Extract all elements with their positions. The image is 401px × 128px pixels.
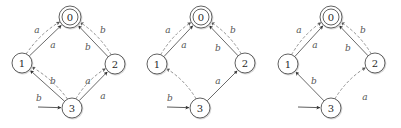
state-label: 1: [154, 59, 160, 70]
automaton-3-edges: [291, 22, 371, 107]
edge-label: a: [34, 25, 39, 35]
automaton-2-labels: aabbba: [165, 25, 236, 103]
edge-label: a: [296, 25, 301, 35]
edge-label: b: [85, 42, 91, 52]
edge-label: b: [50, 76, 56, 86]
labels-layer: aabbbbaaaabbbaaabbba: [34, 25, 367, 103]
state-label: 1: [285, 59, 291, 70]
nodes-layer: 012301230123: [12, 6, 386, 119]
initial-state-arrow: [38, 107, 61, 108]
edge-label: a: [362, 92, 367, 102]
state-label: 2: [372, 58, 378, 69]
state-3: 3: [190, 98, 211, 119]
state-0: 0: [190, 6, 213, 29]
edge-label: b: [215, 43, 221, 53]
state-1: 1: [12, 53, 33, 74]
state-3: 3: [321, 98, 342, 119]
state-label: 3: [328, 103, 334, 114]
edge-label: a: [215, 76, 220, 86]
state-label: 0: [67, 12, 73, 23]
edge-label: b: [100, 25, 106, 35]
state-label: 3: [69, 103, 75, 114]
edge-3-to-2-dashed: [335, 68, 366, 99]
automaton-1-labels: aabbbbaa: [34, 25, 106, 103]
edge-label: b: [230, 25, 236, 35]
automaton-3-nodes: 0123: [278, 6, 386, 119]
state-2: 2: [105, 54, 126, 75]
edge-label: b: [311, 76, 317, 86]
state-label: 2: [112, 59, 118, 70]
edge-label: a: [312, 40, 317, 50]
state-label: 2: [242, 58, 248, 69]
state-2: 2: [235, 53, 256, 74]
state-2: 2: [365, 53, 386, 74]
state-0: 0: [59, 6, 82, 29]
state-3: 3: [62, 98, 83, 119]
state-1: 1: [147, 54, 168, 75]
edge-label: a: [100, 91, 105, 101]
edge-label: b: [360, 25, 366, 35]
edge-label: a: [50, 40, 55, 50]
initial-state-arrow: [167, 107, 189, 108]
automaton-2-nodes: 0123: [147, 6, 256, 119]
edges-layer: [26, 22, 371, 108]
edge-label: b: [167, 93, 173, 103]
edge-label: b: [36, 93, 42, 103]
automaton-3-labels: aabbba: [296, 25, 367, 102]
automata-diagram: 012301230123 aabbbbaaaabbbaaabbba: [0, 0, 401, 128]
edge-label: a: [165, 25, 170, 35]
initial-state-arrow: [298, 107, 320, 108]
edge-3-to-2-solid: [207, 71, 237, 101]
edge-label: a: [85, 76, 90, 86]
edge-3-to-1-solid: [296, 72, 324, 101]
state-label: 3: [197, 103, 203, 114]
edge-label: b: [345, 43, 351, 53]
state-label: 1: [19, 58, 25, 69]
edge-label: a: [181, 40, 186, 50]
state-label: 0: [198, 12, 204, 23]
automaton-1-nodes: 0123: [12, 6, 126, 119]
state-0: 0: [320, 6, 343, 29]
state-label: 0: [328, 12, 334, 23]
state-1: 1: [278, 54, 299, 75]
